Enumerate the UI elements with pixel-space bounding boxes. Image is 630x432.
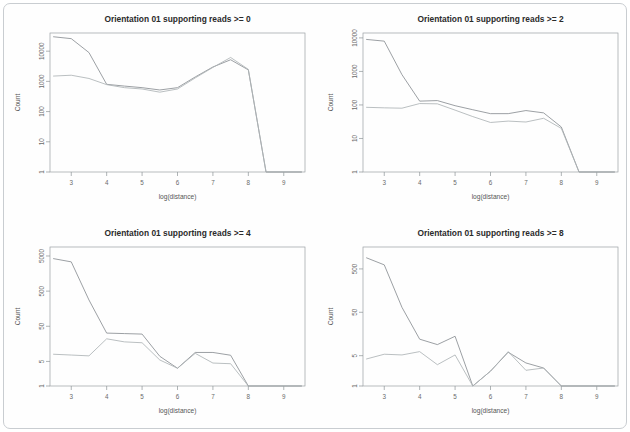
x-axis-title: log(distance): [159, 407, 197, 415]
y-tick-label: 10000: [38, 42, 45, 60]
x-axis-title: log(distance): [472, 407, 510, 415]
x-tick-label: 3: [69, 179, 73, 186]
y-axis-title: Count: [327, 94, 334, 112]
x-tick-label: 8: [247, 393, 251, 400]
x-tick-label: 4: [418, 179, 422, 186]
chart-panel-3: Orientation 01 supporting reads >= 83456…: [313, 214, 628, 430]
y-tick-label: 100: [351, 99, 358, 110]
x-tick-label: 5: [453, 179, 457, 186]
plot-box: [50, 33, 305, 172]
x-tick-label: 6: [489, 179, 493, 186]
x-tick-label: 7: [211, 179, 215, 186]
plot-title: Orientation 01 supporting reads >= 2: [417, 14, 563, 24]
y-tick-label: 5: [38, 359, 45, 363]
series-line-2: [367, 352, 615, 386]
x-tick-label: 9: [282, 393, 286, 400]
x-tick-label: 7: [211, 393, 215, 400]
plot-box: [50, 247, 305, 386]
y-axis-title: Count: [327, 308, 334, 326]
series-line-1: [367, 39, 615, 172]
x-axis-title: log(distance): [159, 193, 197, 201]
y-tick-label: 10000: [351, 29, 358, 47]
y-tick-label: 500: [38, 285, 45, 296]
plot-title: Orientation 01 supporting reads >= 4: [104, 228, 250, 238]
x-tick-label: 6: [489, 393, 493, 400]
y-tick-label: 1: [351, 170, 358, 174]
y-tick-label: 50: [351, 308, 358, 316]
x-tick-label: 9: [595, 393, 599, 400]
chart-panel-1: Orientation 01 supporting reads >= 23456…: [313, 0, 628, 216]
x-tick-label: 3: [382, 393, 386, 400]
x-tick-label: 5: [453, 393, 457, 400]
x-tick-label: 7: [524, 179, 528, 186]
x-tick-label: 5: [140, 393, 144, 400]
y-tick-label: 1000: [38, 74, 45, 89]
x-tick-label: 6: [176, 393, 180, 400]
plot-box: [363, 33, 618, 172]
chart-panel-0: Orientation 01 supporting reads >= 03456…: [0, 0, 315, 216]
y-tick-label: 50: [38, 322, 45, 330]
x-tick-label: 4: [105, 393, 109, 400]
x-tick-label: 9: [282, 179, 286, 186]
x-tick-label: 8: [560, 179, 564, 186]
y-tick-label: 5000: [38, 248, 45, 263]
y-tick-label: 500: [351, 263, 358, 274]
plot-box: [363, 247, 618, 386]
x-tick-label: 5: [140, 179, 144, 186]
x-tick-label: 4: [418, 393, 422, 400]
x-tick-label: 8: [247, 179, 251, 186]
x-tick-label: 3: [382, 179, 386, 186]
y-tick-label: 1: [38, 384, 45, 388]
x-axis-title: log(distance): [472, 193, 510, 201]
series-line-1: [367, 258, 615, 386]
y-tick-label: 1: [38, 170, 45, 174]
y-tick-label: 1000: [351, 64, 358, 79]
y-tick-label: 10: [38, 138, 45, 146]
series-line-2: [54, 57, 302, 172]
x-tick-label: 8: [560, 393, 564, 400]
series-line-1: [54, 37, 302, 172]
x-tick-label: 3: [69, 393, 73, 400]
x-tick-label: 6: [176, 179, 180, 186]
x-tick-label: 7: [524, 393, 528, 400]
series-line-1: [54, 259, 302, 386]
chart-panel-2: Orientation 01 supporting reads >= 43456…: [0, 214, 315, 430]
y-axis-title: Count: [14, 308, 21, 326]
plot-title: Orientation 01 supporting reads >= 0: [104, 14, 250, 24]
y-tick-label: 10: [351, 134, 358, 142]
x-tick-label: 4: [105, 179, 109, 186]
y-axis-title: Count: [14, 94, 21, 112]
y-tick-label: 100: [38, 106, 45, 117]
y-tick-label: 1: [351, 384, 358, 388]
chart-panel-grid: Orientation 01 supporting reads >= 03456…: [0, 0, 630, 432]
plot-title: Orientation 01 supporting reads >= 8: [417, 228, 563, 238]
series-line-2: [54, 339, 302, 386]
x-tick-label: 9: [595, 179, 599, 186]
y-tick-label: 5: [351, 353, 358, 357]
